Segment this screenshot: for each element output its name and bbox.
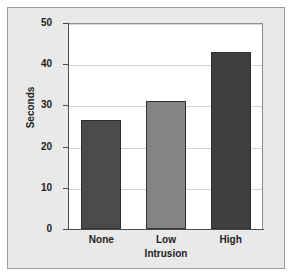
y-axis-tick-label: 10 bbox=[12, 183, 52, 193]
y-axis-tick bbox=[63, 188, 68, 189]
y-axis-tick-label: 30 bbox=[12, 100, 52, 110]
gridline bbox=[69, 24, 262, 25]
bar-none bbox=[81, 120, 121, 229]
x-axis-tick-label: High bbox=[198, 234, 263, 245]
y-axis-tick-label: 0 bbox=[12, 224, 52, 234]
x-axis-line bbox=[68, 229, 264, 230]
y-axis-tick-label: 40 bbox=[12, 59, 52, 69]
bar-high bbox=[211, 52, 251, 229]
x-axis-title: Intrusion bbox=[68, 248, 264, 259]
y-axis-tick bbox=[63, 147, 68, 148]
y-axis-tick bbox=[63, 23, 68, 24]
y-axis-tick bbox=[63, 64, 68, 65]
x-axis-tick-label: None bbox=[69, 234, 134, 245]
y-axis-tick-label: 20 bbox=[12, 142, 52, 152]
y-axis-tick-label: 50 bbox=[12, 18, 52, 28]
y-axis-line bbox=[68, 23, 69, 230]
chart-figure: Seconds Intrusion 01020304050NoneLowHigh bbox=[7, 7, 285, 269]
y-axis-tick bbox=[63, 229, 68, 230]
bar-low bbox=[146, 101, 186, 229]
x-axis-tick-label: Low bbox=[134, 234, 199, 245]
y-axis-tick bbox=[63, 105, 68, 106]
